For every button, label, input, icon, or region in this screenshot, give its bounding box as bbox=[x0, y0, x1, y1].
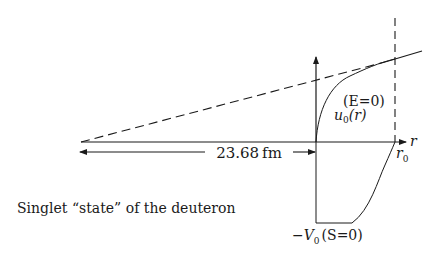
u0-base: u bbox=[334, 107, 343, 123]
potential-well bbox=[316, 142, 395, 223]
axis-label-r: r bbox=[410, 133, 418, 149]
wavefunction-label: u0(r) bbox=[334, 107, 366, 125]
r0-sub: 0 bbox=[403, 154, 409, 164]
distance-label: 23.68 fm bbox=[216, 144, 282, 162]
extrapolation-dashed-line bbox=[81, 62, 385, 142]
u0-arg: (r) bbox=[349, 107, 367, 123]
r0-label: r0 bbox=[396, 145, 409, 164]
caption: Singlet “state” of the deuteron bbox=[17, 200, 235, 216]
potential-prefix: −V bbox=[292, 227, 316, 243]
potential-suffix: (S=0) bbox=[322, 227, 363, 243]
potential-sub: 0 bbox=[314, 236, 320, 246]
deuteron-singlet-diagram: 23.68 fm r r0 (E=0) u0(r) Singlet “state… bbox=[0, 0, 437, 259]
potential-label: −V0(S=0) bbox=[292, 227, 363, 246]
